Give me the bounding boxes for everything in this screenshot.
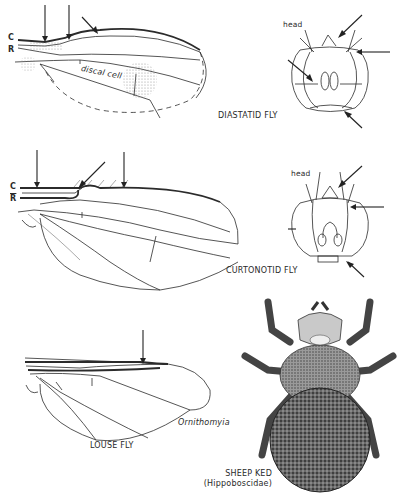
- curtonotid-title: CURTONOTID FLY: [226, 266, 298, 275]
- curtonotid-costa-label: C: [10, 182, 16, 191]
- sheep-ked-title: SHEEP KED: [222, 469, 272, 478]
- diastatid-wing-arrows: [42, 5, 98, 42]
- curtonotid-radius-label: R: [10, 194, 16, 203]
- diastatid-head-label: head: [283, 20, 303, 29]
- curtonotid-head-arrows: [288, 166, 384, 277]
- louse-fly-title: LOUSE FLY: [90, 441, 134, 450]
- louse-fly-wing: [25, 358, 210, 441]
- sheep-ked-body: [245, 302, 393, 492]
- diastatid-costa-label: C: [8, 33, 14, 42]
- curtonotid-head: [292, 172, 369, 262]
- louse-fly-wing-arrow: [140, 330, 146, 364]
- diastatid-title: DIASTATID FLY: [218, 111, 278, 120]
- curtonotid-wing: [18, 180, 238, 290]
- sheep-ked-family: (Hippoboscidae): [200, 479, 272, 488]
- diastatid-head: [292, 30, 369, 112]
- diastatid-radius-label: R: [8, 45, 14, 54]
- curtonotid-head-label: head: [291, 169, 311, 178]
- louse-fly-genus-label: Ornithomyia: [178, 418, 230, 427]
